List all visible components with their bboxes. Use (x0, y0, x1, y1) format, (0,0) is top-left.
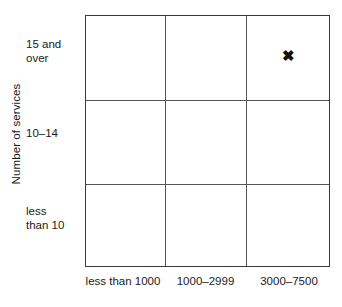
y-axis-label-line: than 10 (26, 219, 82, 233)
x-axis-label-3000-7500: 3000–7500 (248, 274, 330, 294)
grid-cell (86, 16, 166, 101)
y-axis-label-less-than-10: less than 10 (26, 205, 82, 232)
grid-cell (247, 101, 329, 185)
x-axis-label-less-than-1000: less than 1000 (81, 274, 165, 294)
y-axis-category-labels: 15 and over 10–14 less than 10 (26, 15, 82, 267)
y-axis-label-15-and-over: 15 and over (26, 38, 82, 65)
plot-grid-cells: ✖ (86, 16, 329, 266)
y-axis-label-line: less (26, 205, 82, 219)
y-axis-title-label: Number of services (10, 83, 22, 184)
grid-cell (86, 101, 166, 185)
data-point-marker: ✖ (282, 48, 295, 63)
y-axis-label-line: over (26, 52, 82, 66)
y-axis-label-line: 10–14 (26, 127, 82, 141)
y-axis-label-10-14: 10–14 (26, 127, 82, 141)
grid-cell (166, 16, 247, 101)
category-grid-chart: Number of services 15 and over 10–14 les… (0, 0, 342, 307)
grid-cell: ✖ (247, 16, 329, 101)
grid-cell (247, 185, 329, 266)
x-axis-category-labels: less than 1000 1000–2999 3000–7500 (85, 274, 330, 294)
y-axis-title: Number of services (4, 0, 28, 267)
y-axis-label-line: 15 and (26, 38, 82, 52)
grid-cell (86, 185, 166, 266)
plot-grid: ✖ (85, 15, 330, 267)
grid-cell (166, 101, 247, 185)
grid-cell (166, 185, 247, 266)
x-axis-label-1000-2999: 1000–2999 (165, 274, 246, 294)
